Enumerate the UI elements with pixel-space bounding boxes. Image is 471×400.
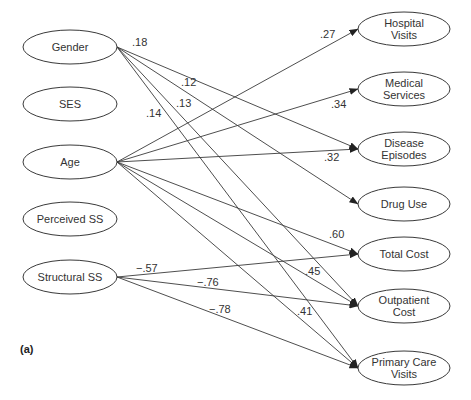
panel-label: (a) (20, 343, 34, 355)
node-age: Age (23, 145, 117, 179)
path-coefficient: .14 (146, 107, 161, 119)
edge-gender-to-disease-episodes (117, 47, 358, 149)
node-perceived-ss: Perceived SS (23, 202, 117, 236)
path-coefficient: −.57 (136, 262, 158, 274)
path-diagram: GenderSESAgePerceived SSStructural SSHos… (0, 0, 471, 400)
node-primary-care-visits: Primary CareVisits (358, 351, 450, 385)
edge-structural-ss-to-primary-care-visits (117, 277, 358, 368)
node-label: Cost (393, 306, 416, 318)
edge-age-to-total-cost (117, 162, 358, 254)
node-label: SES (59, 98, 81, 110)
path-coefficient: .18 (132, 36, 147, 48)
edge-age-to-outpatient-cost (117, 162, 358, 306)
node-label: Age (60, 156, 80, 168)
coefficients-layer: .18.12.13.14.27.34.32.60.45.41−.57−.76−.… (132, 28, 346, 317)
node-label: Perceived SS (37, 213, 104, 225)
node-gender: Gender (23, 30, 117, 64)
node-label: Episodes (381, 149, 427, 161)
node-ses: SES (23, 87, 117, 121)
node-label: Visits (391, 29, 418, 41)
edge-structural-ss-to-outpatient-cost (117, 277, 358, 306)
node-outpatient-cost: OutpatientCost (358, 289, 450, 323)
path-coefficient: .12 (181, 76, 196, 88)
node-label: Structural SS (38, 271, 103, 283)
node-label: Drug Use (381, 198, 427, 210)
edges-layer (117, 29, 358, 368)
node-label: Hospital (384, 17, 424, 29)
path-coefficient: .45 (305, 265, 320, 277)
path-coefficient: .13 (176, 97, 191, 109)
node-disease-episodes: DiseaseEpisodes (358, 132, 450, 166)
node-medical-services: MedicalServices (358, 72, 450, 106)
path-coefficient: .34 (331, 98, 346, 110)
node-label: Visits (391, 368, 418, 380)
path-coefficient: −.76 (197, 276, 219, 288)
node-label: Primary Care (372, 356, 437, 368)
node-hospital-visits: HospitalVisits (358, 12, 450, 46)
node-structural-ss: Structural SS (23, 260, 117, 294)
node-label: Disease (384, 137, 424, 149)
node-label: Services (383, 89, 426, 101)
node-label: Total Cost (380, 248, 429, 260)
path-coefficient: .60 (329, 228, 344, 240)
path-coefficient: .32 (324, 151, 339, 163)
path-coefficient: .27 (320, 28, 335, 40)
node-total-cost: Total Cost (358, 237, 450, 271)
node-label: Gender (52, 41, 89, 53)
nodes-layer: GenderSESAgePerceived SSStructural SSHos… (23, 12, 450, 385)
path-coefficient: −.78 (209, 303, 231, 315)
node-label: Medical (385, 77, 423, 89)
path-coefficient: .41 (297, 305, 312, 317)
node-drug-use: Drug Use (358, 187, 450, 221)
node-label: Outpatient (379, 294, 430, 306)
